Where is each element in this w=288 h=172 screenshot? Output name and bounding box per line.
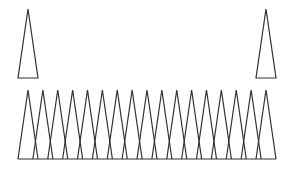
row-triangle [48, 90, 68, 159]
bottom-triangle-row [18, 90, 276, 159]
row-triangle [211, 90, 231, 159]
triangle-diagram [0, 0, 288, 172]
row-triangle [107, 90, 127, 159]
row-triangle [182, 90, 202, 159]
row-triangle [18, 90, 38, 159]
row-triangle [241, 90, 261, 159]
top-triangles [18, 9, 276, 78]
row-triangle [226, 90, 246, 159]
top-right-triangle [256, 9, 276, 78]
row-triangle [256, 90, 276, 159]
row-triangle [167, 90, 187, 159]
top-left-triangle [18, 9, 38, 78]
row-triangle [137, 90, 157, 159]
row-triangle [92, 90, 112, 159]
row-triangle [122, 90, 142, 159]
row-triangle [78, 90, 98, 159]
row-triangle [63, 90, 83, 159]
row-triangle [197, 90, 217, 159]
row-triangle [33, 90, 53, 159]
row-triangle [152, 90, 172, 159]
